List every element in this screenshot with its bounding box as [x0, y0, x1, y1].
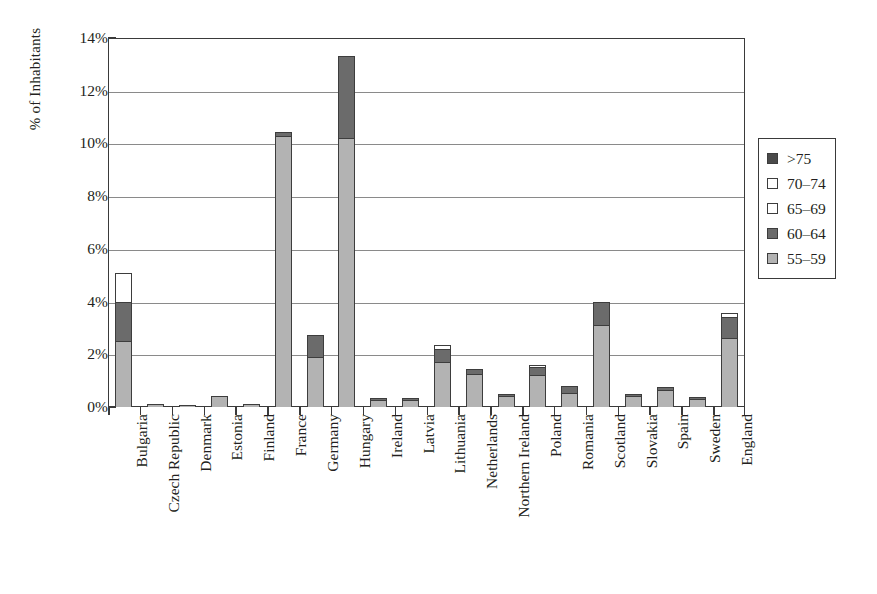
bar-group[interactable] [434, 38, 451, 407]
bar-stack [593, 302, 610, 407]
x-tick-label: Scotland [609, 414, 631, 564]
bar-group[interactable] [721, 38, 738, 407]
legend-label: >75 [787, 151, 811, 167]
bar-segment[interactable] [402, 400, 419, 407]
bar-group[interactable] [625, 38, 642, 407]
bar-group[interactable] [307, 38, 324, 407]
x-tick-label: Ireland [386, 414, 408, 564]
bar-group[interactable] [402, 38, 419, 407]
x-tick-label: Poland [545, 414, 567, 564]
bar-group[interactable] [179, 38, 196, 407]
bar-segment[interactable] [434, 349, 451, 362]
bar-chart-figure: % of Inhabitants 0%2%4%6%8%10%12%14% Bul… [0, 0, 877, 594]
bar-segment[interactable] [307, 335, 324, 357]
x-axis-labels: BulgariaCzech RepublicDenmarkEstoniaFinl… [108, 414, 745, 564]
legend-item[interactable]: 55–59 [767, 246, 826, 271]
bar-segment[interactable] [115, 341, 132, 407]
bar-stack [529, 365, 546, 407]
legend-swatch-icon [767, 203, 778, 214]
bar-stack [338, 56, 355, 407]
bar-segment[interactable] [721, 338, 738, 407]
x-tick-label: Czech Republic [163, 414, 185, 564]
bar-stack [657, 387, 674, 407]
bar-group[interactable] [338, 38, 355, 407]
bar-segment[interactable] [338, 138, 355, 407]
bar-segment[interactable] [370, 400, 387, 407]
bar-stack [466, 369, 483, 407]
y-tick-label: 14% [52, 30, 108, 46]
bar-group[interactable] [593, 38, 610, 407]
legend-label: 70–74 [787, 176, 826, 192]
y-tick-label: 8% [52, 188, 108, 204]
bar-group[interactable] [466, 38, 483, 407]
bar-segment[interactable] [529, 367, 546, 375]
bar-segment[interactable] [657, 390, 674, 407]
legend-label: 60–64 [787, 226, 826, 242]
bar-segment[interactable] [275, 136, 292, 407]
bar-stack [689, 397, 706, 407]
legend-swatch-icon [767, 153, 778, 164]
y-axis-ticks: 0%2%4%6%8%10%12%14% [40, 38, 108, 407]
bar-segment[interactable] [434, 362, 451, 407]
bar-stack [370, 398, 387, 407]
y-tick-label: 0% [52, 399, 108, 415]
bar-group[interactable] [275, 38, 292, 407]
bar-group[interactable] [498, 38, 515, 407]
x-tick-label: Finland [258, 414, 280, 564]
x-tick-label: Northern Ireland [513, 414, 535, 564]
legend-item[interactable]: 65–69 [767, 196, 826, 221]
bar-group[interactable] [211, 38, 228, 407]
bar-stack [211, 396, 228, 407]
y-tick-label: 6% [52, 241, 108, 257]
bar-segment[interactable] [466, 374, 483, 407]
bar-group[interactable] [243, 38, 260, 407]
legend-item[interactable]: 60–64 [767, 221, 826, 246]
bar-group[interactable] [147, 38, 164, 407]
bar-segment[interactable] [211, 396, 228, 407]
bar-stack [307, 335, 324, 407]
bar-group[interactable] [561, 38, 578, 407]
bar-segment[interactable] [529, 375, 546, 407]
chart-legend: >7570–7465–6960–6455–59 [758, 138, 836, 279]
x-tick-label: France [290, 414, 312, 564]
x-tick-label: Estonia [226, 414, 248, 564]
bar-segment[interactable] [721, 317, 738, 338]
bar-group[interactable] [689, 38, 706, 407]
y-tick-label: 10% [52, 135, 108, 151]
bar-stack [402, 398, 419, 407]
bar-stack [625, 394, 642, 407]
bar-segment[interactable] [689, 399, 706, 407]
legend-label: 55–59 [787, 251, 826, 267]
bar-segment[interactable] [561, 386, 578, 393]
y-tick-label: 12% [52, 83, 108, 99]
bar-stack [434, 345, 451, 407]
bar-group[interactable] [657, 38, 674, 407]
bar-segment[interactable] [307, 357, 324, 407]
bar-segment[interactable] [338, 56, 355, 138]
bar-group[interactable] [529, 38, 546, 407]
bar-stack [561, 386, 578, 407]
x-tick-label: Latvia [418, 414, 440, 564]
x-tick-label: Slovakia [641, 414, 663, 564]
bar-segment[interactable] [561, 393, 578, 407]
legend-swatch-icon [767, 228, 778, 239]
bar-segment[interactable] [625, 396, 642, 407]
x-tick-label: Germany [322, 414, 344, 564]
bar-group[interactable] [370, 38, 387, 407]
bar-segment[interactable] [593, 302, 610, 326]
bar-group[interactable] [115, 38, 132, 407]
bar-segment[interactable] [115, 302, 132, 342]
bar-stack [275, 132, 292, 407]
x-tick-label: England [736, 414, 758, 564]
x-tick-label: Sweden [704, 414, 726, 564]
bar-segment[interactable] [498, 396, 515, 407]
bar-stack [498, 394, 515, 407]
bar-segment[interactable] [593, 325, 610, 407]
bars-layer [108, 38, 745, 407]
bar-segment[interactable] [115, 273, 132, 302]
legend-item[interactable]: 70–74 [767, 171, 826, 196]
x-tick-label: Hungary [354, 414, 376, 564]
legend-item[interactable]: >75 [767, 146, 826, 171]
x-tick-label: Bulgaria [131, 414, 153, 564]
x-tick-label: Netherlands [481, 414, 503, 564]
